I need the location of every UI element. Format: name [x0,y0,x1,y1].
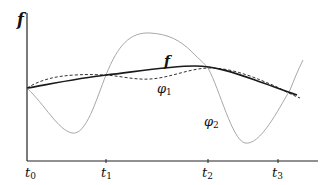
tick-label-t2: t2 [202,166,213,181]
phi2-label: φ2 [204,115,219,130]
f-curve-label: f [164,54,170,68]
tick-label-t1: t1 [101,166,112,181]
y-axis-label: f [17,12,24,28]
phi1-label: φ1 [157,82,172,97]
tick-label-t3: t3 [272,166,283,181]
tick-label-t0: t0 [25,166,36,181]
